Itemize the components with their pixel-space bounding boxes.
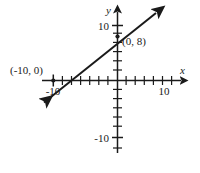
point-label-y-intercept: (0, 8) bbox=[122, 35, 146, 48]
cartesian-plot: y x 10 -10 -10 10 (-10, 0) (0, 8) bbox=[0, 0, 200, 173]
point-marker-intercept-x bbox=[51, 78, 55, 82]
y-tick-label-10: 10 bbox=[98, 20, 110, 32]
x-tick-label-neg10: -10 bbox=[46, 85, 61, 97]
x-axis-label: x bbox=[179, 64, 185, 76]
graph-figure: y x 10 -10 -10 10 (-10, 0) (0, 8) bbox=[0, 0, 200, 173]
point-label-x-intercept: (-10, 0) bbox=[10, 64, 43, 77]
y-axis bbox=[112, 12, 123, 153]
x-tick-label-10: 10 bbox=[159, 85, 171, 97]
point-marker-intercept-y bbox=[115, 34, 119, 38]
y-axis-label: y bbox=[105, 4, 111, 16]
y-tick-label-neg10: -10 bbox=[94, 132, 109, 144]
